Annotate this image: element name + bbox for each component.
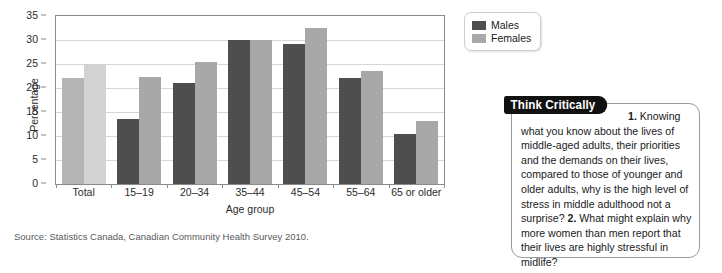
y-tick-label: 30 — [26, 33, 38, 45]
y-axis: 05101520253035 — [0, 0, 48, 198]
legend-label-females: Females — [491, 32, 531, 44]
think-critically-box: Think Critically 1. Knowing what you kno… — [511, 103, 700, 258]
y-tick-mark — [41, 63, 46, 64]
legend-swatch-males-icon — [472, 21, 486, 30]
legend-item-males: Males — [472, 19, 531, 31]
bar-females — [250, 40, 272, 184]
x-tick-label: 55–64 — [333, 186, 388, 198]
x-tick-label: 15–19 — [111, 186, 166, 198]
y-tick-label: 25 — [26, 57, 38, 69]
y-tick-label: 0 — [32, 177, 38, 189]
chart-legend: Males Females — [464, 12, 541, 51]
bar-males — [283, 44, 305, 184]
bar-chart-figure: Percentage 05101520253035 Total15–1920–3… — [0, 0, 500, 273]
bar-group — [339, 16, 383, 184]
bar-females — [84, 64, 106, 184]
bar-males — [394, 134, 416, 184]
think-critically-questions: 1. Knowing what you know about the lives… — [521, 109, 694, 270]
legend-item-females: Females — [472, 32, 531, 44]
bar-group — [283, 16, 327, 184]
y-tick-mark — [41, 39, 46, 40]
bar-groups — [56, 16, 444, 184]
y-tick-label: 15 — [26, 105, 38, 117]
y-tick-mark — [41, 111, 46, 112]
bar-females — [195, 62, 217, 184]
bar-females — [361, 71, 383, 184]
legend-label-males: Males — [491, 19, 519, 31]
y-tick-label: 35 — [26, 9, 38, 21]
x-tick-label: Total — [56, 186, 111, 198]
y-tick-mark — [41, 15, 46, 16]
question-1-text: Knowing what you know about the lives of… — [521, 110, 688, 224]
x-tick-label: 65 or older — [389, 186, 444, 198]
x-tick-label: 35–44 — [222, 186, 277, 198]
plot-area — [55, 15, 445, 185]
source-note: Source: Statistics Canada, Canadian Comm… — [14, 231, 309, 242]
legend-swatch-females-icon — [472, 34, 486, 43]
bar-group — [173, 16, 217, 184]
bar-females — [139, 77, 161, 184]
y-tick-label: 20 — [26, 81, 38, 93]
bar-group — [228, 16, 272, 184]
bar-group — [117, 16, 161, 184]
bar-males — [62, 78, 84, 184]
bar-females — [305, 28, 327, 184]
x-tick-label: 20–34 — [167, 186, 222, 198]
y-tick-mark — [41, 87, 46, 88]
x-tick-mark — [444, 184, 445, 188]
bar-females — [416, 121, 438, 184]
bar-group — [62, 16, 106, 184]
bar-males — [117, 119, 139, 184]
y-tick-mark — [41, 159, 46, 160]
bar-group — [394, 16, 438, 184]
x-axis-title: Age group — [56, 203, 444, 215]
bar-males — [339, 78, 361, 184]
question-1-number: 1. — [628, 110, 637, 122]
y-tick-label: 10 — [26, 129, 38, 141]
y-tick-mark — [41, 135, 46, 136]
question-2-number: 2. — [568, 212, 577, 224]
bar-males — [173, 83, 195, 184]
x-tick-label: 45–54 — [278, 186, 333, 198]
y-tick-label: 5 — [32, 153, 38, 165]
y-tick-mark — [41, 183, 46, 184]
bar-males — [228, 40, 250, 184]
x-axis-labels: Total15–1920–3435–4445–5455–6465 or olde… — [56, 186, 444, 198]
